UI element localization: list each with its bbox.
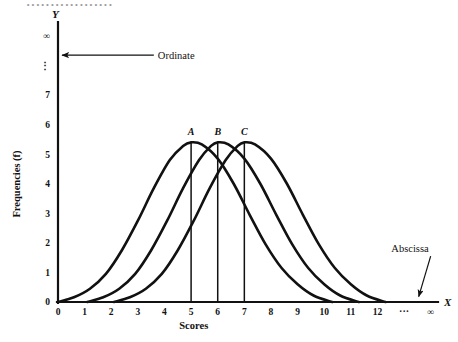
y-tick-label-3: 3 [45,209,50,219]
distribution-curves [58,142,385,302]
x-tick-label-5: 5 [189,307,194,317]
x-tick-label-7: 7 [242,307,247,317]
y-tick-label-5: 5 [45,150,50,160]
figure-container: ·················· 01234567⋮∞ 0123456789… [0,0,458,342]
x-tick-label-···: ··· [399,306,409,317]
x-tick-label-∞: ∞ [427,307,434,317]
x-tick-label-9: 9 [295,307,300,317]
x-tick-label-0: 0 [56,307,61,317]
x-axis-name-label: X [443,296,452,308]
y-axis-title: Frequencies (f) [11,150,23,218]
y-axis-tick-labels: 01234567⋮∞ [40,31,50,307]
ordinate-label: Ordinate [158,50,195,61]
y-tick-label-0: 0 [45,297,50,307]
x-tick-label-11: 11 [346,307,355,317]
x-tick-label-1: 1 [82,307,87,317]
curve-label-C: C [241,126,248,137]
x-tick-label-4: 4 [162,307,167,317]
curve-labels: ABC [187,126,248,137]
abscissa-label: Abscissa [391,243,429,254]
x-tick-label-3: 3 [135,307,140,317]
plot-area: 01234567⋮∞ 0123456789101112···∞ ABC Ordi… [11,8,452,331]
y-tick-label-4: 4 [45,179,50,189]
peak-vertical-lines [191,142,244,302]
curve-label-A: A [187,126,195,137]
y-axis-name-label: Y [52,8,60,20]
abscissa-arrow [419,256,431,297]
cropped-caption-fragment: ·················· [0,0,458,9]
y-tick-label-2: 2 [45,238,50,248]
y-tick-label-7: 7 [45,90,50,100]
y-tick-label-1: 1 [45,268,50,278]
frequency-distribution-chart: 01234567⋮∞ 0123456789101112···∞ ABC Ordi… [0,0,458,342]
x-axis-title: Scores [179,320,208,331]
x-tick-label-6: 6 [215,307,220,317]
y-tick-label-6: 6 [45,120,50,130]
x-tick-label-8: 8 [269,307,274,317]
y-tick-label-∞: ∞ [43,31,50,41]
x-axis-tick-labels: 0123456789101112···∞ [56,306,435,317]
y-tick-label-⋮: ⋮ [40,61,50,71]
x-tick-label-2: 2 [109,307,114,317]
curve-label-B: B [213,126,221,137]
x-tick-label-10: 10 [319,307,329,317]
x-tick-label-12: 12 [373,307,383,317]
